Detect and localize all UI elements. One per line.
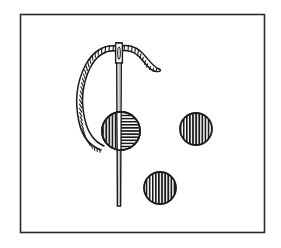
- needle-eye: [118, 47, 121, 59]
- border-rect: [21, 15, 265, 233]
- bead-right: [180, 113, 212, 145]
- needle-and-beads-drawing: [0, 0, 281, 248]
- illustration-canvas: [0, 0, 281, 248]
- bead-right-face: [180, 113, 212, 145]
- needle-through-bead: [117, 112, 121, 150]
- bead-bottom: [144, 172, 176, 204]
- bead-left: [102, 112, 140, 150]
- illustration-border: [21, 15, 265, 233]
- bead-bottom-face: [144, 172, 176, 204]
